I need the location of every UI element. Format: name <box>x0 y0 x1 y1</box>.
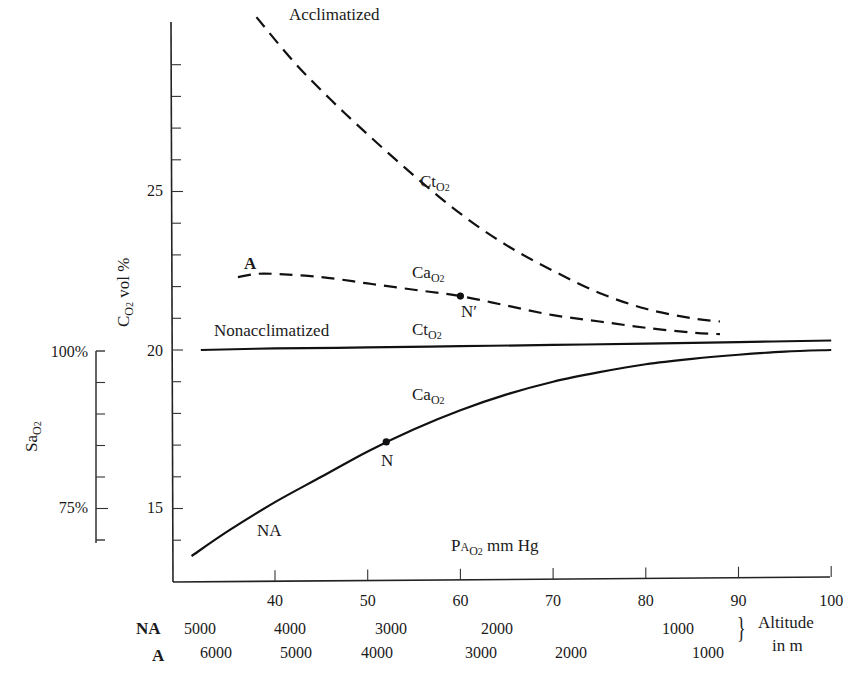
alt-na-3000: 3000 <box>375 621 407 637</box>
y-axis-ticks <box>172 65 183 541</box>
label-point-n: N <box>381 452 393 469</box>
label-acc-cao2: CaO2 <box>412 264 445 281</box>
y-axis-title: CO2 vol % <box>114 258 134 327</box>
curve-acclimatized-ct-o2 <box>256 17 720 321</box>
alt-a-5000: 5000 <box>280 645 312 661</box>
x-tick-40: 40 <box>267 593 283 609</box>
altitude-label-line2: in m <box>772 637 803 654</box>
altitude-label-line1: Altitude <box>758 614 814 631</box>
altitude-row-na-label: NA <box>136 620 161 637</box>
alt-a-2000: 2000 <box>555 645 587 661</box>
sa-tick-75: 75% <box>42 500 88 516</box>
alt-na-1000: 1000 <box>662 621 694 637</box>
curve-nonacclimatized-ca-o2 <box>192 350 832 556</box>
x-tick-80: 80 <box>638 593 654 609</box>
curve-nonacclimatized-ct-o2 <box>201 340 831 350</box>
alt-a-4000: 4000 <box>361 645 393 661</box>
x-axis-title: PAO2 mm Hg <box>451 537 539 554</box>
alt-na-2000: 2000 <box>481 621 513 637</box>
alt-a-3000: 3000 <box>465 645 497 661</box>
x-axis-ticks <box>275 566 831 581</box>
x-axis-line <box>173 577 830 582</box>
point-n <box>383 438 390 445</box>
chart-container: Acclimatized Nonacclimatized A NA CtO2 C… <box>0 0 857 679</box>
x-tick-90: 90 <box>731 593 747 609</box>
label-nonacc-cto2: CtO2 <box>412 321 442 338</box>
alt-a-6000: 6000 <box>200 645 232 661</box>
y-axis-line <box>171 22 173 582</box>
label-na: NA <box>257 522 282 539</box>
y-tick-25: 25 <box>123 183 163 199</box>
x-tick-50: 50 <box>360 593 376 609</box>
point-n-prime <box>457 293 464 300</box>
label-acc-cto2: CtO2 <box>420 173 450 190</box>
y-tick-15: 15 <box>123 500 163 516</box>
curves <box>192 17 832 556</box>
sa-axis <box>96 351 108 543</box>
sa-tick-100: 100% <box>42 344 88 360</box>
label-nonacclimatized: Nonacclimatized <box>214 322 329 339</box>
x-tick-100: 100 <box>819 593 843 609</box>
alt-a-1000: 1000 <box>692 645 724 661</box>
altitude-row-a-label: A <box>152 647 164 664</box>
label-nonacc-cao2: CaO2 <box>412 386 445 403</box>
sa-axis-title: SaO2 <box>22 421 42 452</box>
altitude-brace: } <box>737 612 746 642</box>
label-point-n-prime: N′ <box>461 303 477 320</box>
x-tick-70: 70 <box>545 593 561 609</box>
y-tick-20: 20 <box>123 343 163 359</box>
x-tick-60: 60 <box>452 593 468 609</box>
label-a: A <box>244 255 256 272</box>
alt-na-4000: 4000 <box>274 621 306 637</box>
label-acclimatized: Acclimatized <box>289 6 380 23</box>
alt-na-5000: 5000 <box>184 621 216 637</box>
